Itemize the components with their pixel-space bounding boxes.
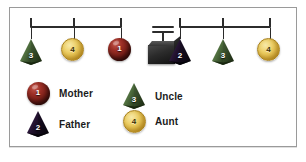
figure-frame: 3 4 1 xyxy=(9,7,297,147)
left-beam-post-2 xyxy=(73,18,75,27)
node-number: 1 xyxy=(108,44,131,53)
left-beam-post-1 xyxy=(30,18,32,27)
figure-root: 3 4 1 xyxy=(0,0,306,162)
right-beam-post-1 xyxy=(179,18,181,27)
legend-label: Father xyxy=(59,119,90,130)
legend-item-father: 2 Father xyxy=(24,110,90,138)
legend-icon-circle-gold: 4 xyxy=(120,110,148,133)
legend-item-aunt: 4 Aunt xyxy=(120,110,178,133)
legend-label: Aunt xyxy=(155,116,178,127)
right-node-uncle[interactable]: 3 xyxy=(210,38,236,66)
left-node-aunt[interactable]: 4 xyxy=(61,38,84,61)
right-mobile: 2 3 4 xyxy=(175,18,275,78)
legend-label: Uncle xyxy=(155,91,183,102)
pyramid-dark-icon: 2 xyxy=(167,38,193,66)
legend-label: Mother xyxy=(59,88,93,99)
right-node-father[interactable]: 2 xyxy=(167,38,193,66)
legend-number: 1 xyxy=(27,88,50,97)
right-beam-post-3 xyxy=(269,18,271,27)
cropped-top-text xyxy=(0,0,306,7)
node-number: 4 xyxy=(62,45,83,54)
pyramid-green-icon: 3 xyxy=(210,38,236,66)
right-beam xyxy=(179,26,271,28)
right-node-aunt[interactable]: 4 xyxy=(257,38,280,61)
circle-gold-icon: 4 xyxy=(257,38,280,61)
sphere-red-icon: 1 xyxy=(108,38,131,61)
fulcrum-bar-top xyxy=(152,26,174,28)
legend-icon-sphere: 1 xyxy=(24,82,52,105)
left-node-mother[interactable]: 1 xyxy=(108,38,131,61)
left-node-uncle[interactable]: 3 xyxy=(18,38,44,66)
circle-gold-icon: 4 xyxy=(61,38,84,61)
left-mobile: 3 4 1 xyxy=(26,18,126,78)
left-beam xyxy=(30,26,122,28)
pyramid-green-icon: 3 xyxy=(18,38,44,66)
legend-item-uncle: 3 Uncle xyxy=(120,82,183,110)
legend-icon-pyramid-dark: 2 xyxy=(24,110,52,138)
right-beam-post-2 xyxy=(222,18,224,27)
legend-item-mother: 1 Mother xyxy=(24,82,93,105)
left-beam-post-3 xyxy=(120,18,122,27)
legend-icon-pyramid-green: 3 xyxy=(120,82,148,110)
node-number: 4 xyxy=(258,45,279,54)
legend-number: 4 xyxy=(124,117,145,126)
